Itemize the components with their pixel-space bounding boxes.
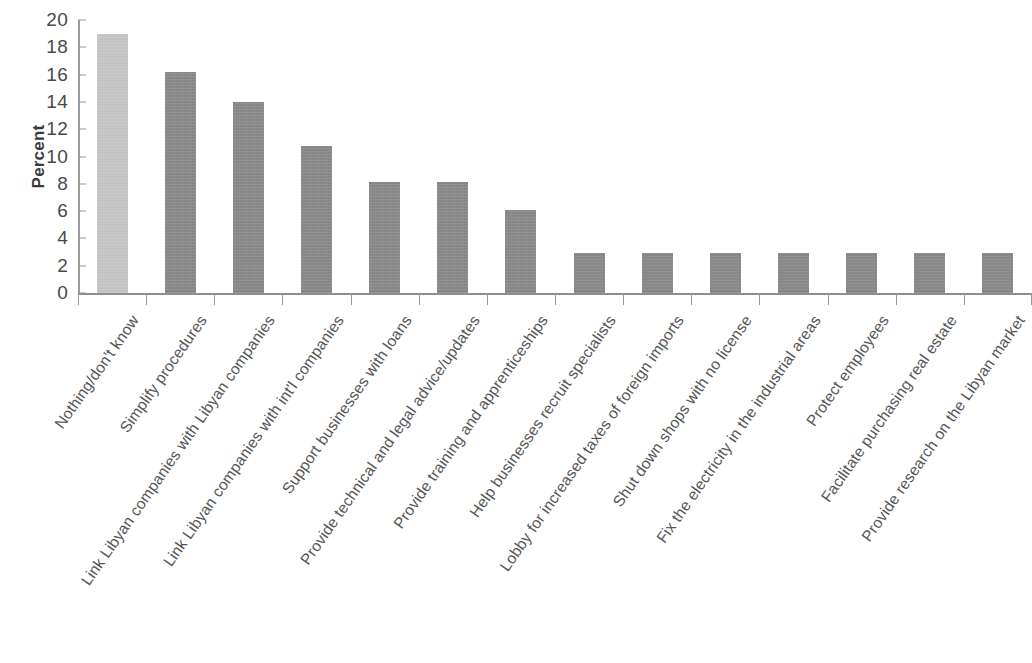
x-axis-category-label-text: Provide technical and legal advice/updat… (297, 312, 484, 568)
y-axis-tick-label: 6 (57, 200, 68, 222)
y-axis-tick-label: 12 (46, 118, 68, 140)
x-axis-category-label-text: Help businesses recruit specialists (466, 312, 620, 521)
x-axis-tick-mark (282, 294, 283, 305)
x-axis-tick-mark (419, 294, 420, 305)
x-axis-category-label-text: Protect employees (803, 312, 893, 430)
bar (710, 253, 741, 293)
y-axis-tick-label: 20 (46, 9, 68, 31)
bar (574, 253, 605, 293)
x-axis-category-label-text: Simplify procedures (116, 312, 210, 436)
x-axis-category-label-text: Lobby for increased taxes of foreign imp… (496, 312, 687, 575)
bar (165, 72, 196, 293)
x-axis-category-label-text: Link Libyan companies with Libyan compan… (78, 312, 279, 589)
bar (97, 34, 128, 293)
y-axis-tick-label: 10 (46, 146, 68, 168)
plot-area (78, 20, 1032, 293)
bar (505, 210, 536, 293)
bar (233, 102, 264, 293)
x-axis-category-label-text: Support businesses with loans (278, 312, 415, 497)
x-axis-tick-mark (896, 294, 897, 305)
y-axis-tick-label: 8 (57, 173, 68, 195)
x-axis-tick-mark (828, 294, 829, 305)
x-axis-category-label-text: Provide research on the Libyan market (858, 312, 1029, 545)
x-axis-tick-mark (555, 294, 556, 305)
y-axis-ticks: 20181614121086420 (0, 0, 78, 663)
bar (301, 146, 332, 293)
bar-chart-figure: Percent 20181614121086420 Nothing/don't … (0, 0, 1032, 663)
x-axis-category-label-text: Shut down shops with no license (610, 312, 756, 510)
x-axis-category-label-text: Facilitate purchasing real estate (817, 312, 960, 506)
x-axis-tick-mark (214, 294, 215, 305)
x-axis-tick-mark (964, 294, 965, 305)
x-axis-category-label-text: Fix the electricity in the industrial ar… (653, 312, 825, 546)
bar (846, 253, 877, 293)
x-axis-tick-mark (691, 294, 692, 305)
x-axis-tick-mark (351, 294, 352, 305)
bar (982, 253, 1013, 293)
x-axis-tick-mark (487, 294, 488, 305)
x-axis-tick-mark (78, 294, 79, 305)
bar (369, 182, 400, 293)
y-axis-tick-label: 16 (46, 64, 68, 86)
bar (437, 182, 468, 293)
x-axis-tick-mark (146, 294, 147, 305)
bar (642, 253, 673, 293)
y-axis-tick-label: 2 (57, 255, 68, 277)
y-axis-tick-label: 4 (57, 227, 68, 249)
x-axis-ticks (0, 294, 1032, 308)
x-axis-tick-mark (623, 294, 624, 305)
x-axis-tick-mark (759, 294, 760, 305)
y-axis-tick-label: 18 (46, 36, 68, 58)
x-axis-category-label-text: Provide training and apprenticeships (390, 312, 552, 532)
bar (778, 253, 809, 293)
x-axis-category-label-text: Link Libyan companies with int'l compani… (159, 312, 347, 570)
y-axis-tick-label: 14 (46, 91, 68, 113)
bar (914, 253, 945, 293)
